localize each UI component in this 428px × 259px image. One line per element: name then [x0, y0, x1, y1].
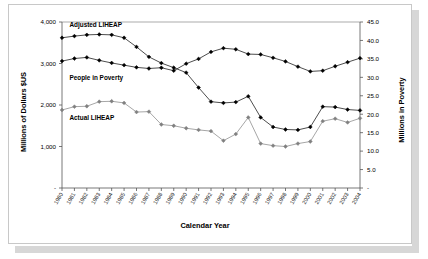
- series-point: [346, 121, 350, 125]
- left-axis-tick-label: -: [54, 184, 56, 191]
- series-point: [308, 70, 312, 74]
- x-axis-tick-label: 1995: [239, 192, 250, 206]
- series-point: [321, 105, 325, 109]
- left-axis-tick-label: 4,000: [41, 18, 57, 25]
- series-point: [184, 62, 188, 66]
- series-point: [97, 33, 101, 37]
- series-point: [271, 56, 275, 60]
- series-point: [85, 104, 89, 108]
- series-point: [122, 63, 126, 67]
- series-label: Actual LIHEAP: [69, 114, 114, 121]
- right-axis: -5.010.015.020.025.030.035.040.045.0: [360, 18, 380, 191]
- series-point: [85, 56, 89, 60]
- x-axis-title: Calendar Year: [180, 221, 229, 230]
- screenshot-root: -1,0002,0003,0004,000 -5.010.015.020.025…: [0, 0, 428, 259]
- series-point: [73, 34, 77, 38]
- series-label: People in Poverty: [69, 74, 123, 82]
- series-point: [73, 57, 77, 61]
- series-point: [296, 128, 300, 132]
- right-axis-tick-label: 25.0: [367, 92, 380, 99]
- x-axis-tick-label: 1991: [189, 192, 200, 206]
- series-point: [197, 128, 201, 132]
- x-axis-tick-label: 1996: [251, 192, 262, 206]
- x-axis-tick-label: 1983: [90, 192, 101, 206]
- series-point: [333, 117, 337, 121]
- x-axis-tick-label: 2002: [326, 192, 337, 206]
- series-point: [296, 65, 300, 69]
- series-point: [172, 69, 176, 73]
- series-point: [246, 52, 250, 56]
- series-point: [358, 56, 362, 60]
- x-axis-tick-label: 1984: [102, 192, 113, 206]
- series-point: [333, 105, 337, 109]
- series-point: [97, 100, 101, 104]
- left-axis-tick-label: 1,000: [41, 143, 57, 150]
- right-axis-tick-label: 20.0: [367, 111, 380, 118]
- x-axis-tick-label: 1985: [115, 192, 126, 206]
- series-point: [172, 124, 176, 128]
- right-axis-tick-label: -: [367, 184, 369, 191]
- right-axis-tick-label: 5.0: [367, 166, 376, 173]
- left-axis-title: Millions of Dollars $US: [19, 72, 28, 152]
- x-axis-tick-label: 1992: [202, 192, 213, 206]
- series-point: [209, 50, 213, 54]
- left-axis: -1,0002,0003,0004,000: [41, 18, 62, 191]
- right-axis-tick-label: 30.0: [367, 74, 380, 81]
- right-axis-tick-label: 45.0: [367, 18, 380, 25]
- series-point: [197, 57, 201, 61]
- series-layer: [60, 33, 362, 149]
- series-label: Adjusted LIHEAP: [69, 21, 122, 29]
- left-axis-tick-label: 3,000: [41, 60, 57, 67]
- x-axis-tick-label: 2001: [313, 192, 324, 206]
- x-axis-tick-label: 1982: [77, 192, 88, 206]
- x-axis-tick-label: 1980: [53, 192, 64, 206]
- series-point: [110, 33, 114, 37]
- series-point: [271, 144, 275, 148]
- x-axis: 1980198119821983198419851986198719881989…: [53, 188, 362, 205]
- series-point: [85, 33, 89, 37]
- series-point: [321, 119, 325, 123]
- series-point: [184, 126, 188, 130]
- series-point: [358, 116, 362, 120]
- x-axis-tick-label: 1988: [152, 192, 163, 206]
- right-axis-tick-label: 15.0: [367, 129, 380, 136]
- series-point: [97, 58, 101, 62]
- series-point: [159, 61, 163, 65]
- plot-frame: [62, 22, 360, 188]
- dual-axis-line-chart: -1,0002,0003,0004,000 -5.010.015.020.025…: [0, 0, 428, 259]
- x-axis-tick-label: 1990: [177, 192, 188, 206]
- series-point: [159, 66, 163, 70]
- left-axis-tick-label: 2,000: [41, 101, 57, 108]
- x-axis-tick-label: 1993: [214, 192, 225, 206]
- series-point: [135, 65, 139, 69]
- right-axis-title: Millions in Poverty: [397, 76, 406, 142]
- series-point: [60, 36, 64, 40]
- series-point: [147, 67, 151, 71]
- series-point: [358, 108, 362, 112]
- x-axis-tick-label: 2003: [338, 192, 349, 206]
- x-axis-tick-label: 2000: [301, 192, 312, 206]
- series-point: [234, 100, 238, 104]
- series-point: [308, 125, 312, 129]
- x-axis-tick-label: 1981: [65, 192, 76, 206]
- series-point: [284, 128, 288, 132]
- series-point: [259, 53, 263, 57]
- right-axis-tick-label: 40.0: [367, 37, 380, 44]
- series-point: [222, 46, 226, 50]
- x-axis-tick-label: 1986: [127, 192, 138, 206]
- x-axis-tick-label: 1997: [264, 192, 275, 206]
- series-point: [222, 101, 226, 105]
- series-point: [296, 142, 300, 146]
- series-point: [73, 105, 77, 109]
- right-axis-tick-label: 35.0: [367, 55, 380, 62]
- series-point: [284, 145, 288, 149]
- x-axis-tick-label: 1998: [276, 192, 287, 206]
- series-point: [308, 140, 312, 144]
- right-axis-tick-label: 10.0: [367, 147, 380, 154]
- series-point: [110, 99, 114, 103]
- series-point: [259, 142, 263, 146]
- x-axis-tick-label: 1987: [140, 192, 151, 206]
- series-point: [346, 60, 350, 64]
- series-point: [333, 64, 337, 68]
- series-point: [110, 61, 114, 65]
